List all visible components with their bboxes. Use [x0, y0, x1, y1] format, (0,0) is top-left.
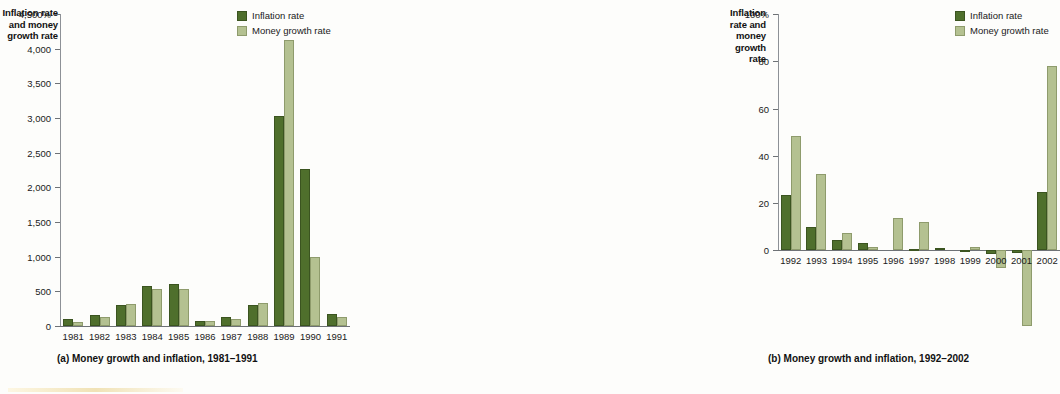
bar-inflation-rate-1998	[935, 248, 945, 250]
bar-money-growth-rate-1999	[970, 247, 980, 251]
y-tick-label: 2,500	[0, 147, 51, 158]
bar-inflation-rate-1997	[909, 249, 919, 251]
bar-money-growth-rate-1992	[791, 136, 801, 251]
y-tick-mark	[55, 49, 60, 50]
bar-inflation-rate-1984	[142, 286, 152, 326]
y-tick-label: 0	[709, 245, 769, 256]
x-tick-label-1991: 1991	[326, 331, 347, 342]
x-tick-label-1989: 1989	[274, 331, 295, 342]
y-tick-mark	[773, 109, 778, 110]
y-tick-label: 20	[709, 198, 769, 209]
bar-money-growth-rate-1996	[893, 218, 903, 250]
x-tick-label-2000: 2000	[985, 255, 1006, 266]
x-tick-label-1986: 1986	[194, 331, 215, 342]
x-tick-label-1981: 1981	[63, 331, 84, 342]
y-tick-label: 3,000	[0, 113, 51, 124]
panel-a-plot-area: 05001,0001,5002,0002,5003,0003,5004,0004…	[60, 14, 350, 326]
y-tick-label: 40	[709, 150, 769, 161]
x-tick-label-1995: 1995	[857, 255, 878, 266]
bar-money-growth-rate-2002	[1047, 66, 1057, 250]
y-tick-mark	[773, 156, 778, 157]
x-tick-label-1987: 1987	[221, 331, 242, 342]
y-tick-label: 500	[0, 286, 51, 297]
bar-money-growth-rate-1990	[310, 257, 320, 326]
bar-inflation-rate-1988	[248, 305, 258, 326]
bar-inflation-rate-1982	[90, 315, 100, 326]
y-tick-label: 2,000	[0, 182, 51, 193]
bar-money-growth-rate-1982	[100, 317, 110, 326]
bar-inflation-rate-1987	[221, 317, 231, 326]
y-tick-mark	[55, 326, 60, 327]
decorative-bottom-band	[8, 388, 183, 392]
bar-money-growth-rate-1987	[231, 319, 241, 326]
y-tick-mark	[773, 61, 778, 62]
bar-inflation-rate-1981	[63, 319, 73, 326]
x-tick-label-1990: 1990	[300, 331, 321, 342]
x-tick-label-2002: 2002	[1037, 255, 1058, 266]
y-tick-label: 0	[0, 321, 51, 332]
y-tick-mark	[55, 257, 60, 258]
y-tick-mark	[55, 153, 60, 154]
bar-inflation-rate-2000	[986, 250, 996, 254]
panel-b-caption: (b) Money growth and inflation, 1992–200…	[768, 353, 969, 364]
bar-inflation-rate-1985	[169, 284, 179, 326]
chart-panel-a: Inflation rate and money growth rate Inf…	[0, 0, 360, 394]
bar-inflation-rate-1999	[960, 250, 970, 252]
bar-inflation-rate-2002	[1037, 192, 1047, 250]
x-tick-label-1999: 1999	[960, 255, 981, 266]
y-tick-mark	[55, 291, 60, 292]
x-tick-label-1997: 1997	[908, 255, 929, 266]
y-tick-label: 4,000	[0, 43, 51, 54]
bar-money-growth-rate-1994	[842, 233, 852, 250]
y-tick-label: 3,500	[0, 78, 51, 89]
bar-money-growth-rate-1986	[205, 321, 215, 326]
bar-inflation-rate-1991	[327, 314, 337, 326]
y-tick-mark	[55, 118, 60, 119]
y-tick-mark	[773, 203, 778, 204]
y-tick-label: 100%	[709, 9, 769, 20]
bar-money-growth-rate-1984	[152, 289, 162, 326]
y-tick-label: 4,500%	[0, 9, 51, 20]
panel-a-bar-group	[60, 14, 350, 326]
bar-money-growth-rate-1988	[258, 303, 268, 326]
bar-money-growth-rate-1981	[73, 322, 83, 326]
y-tick-mark	[55, 14, 60, 15]
y-tick-label: 60	[709, 103, 769, 114]
panel-b-bar-group	[778, 14, 1060, 326]
panel-b-plot-area: 020406080100%	[778, 14, 1060, 326]
x-tick-label-1988: 1988	[247, 331, 268, 342]
x-tick-label-1993: 1993	[806, 255, 827, 266]
x-tick-label-2001: 2001	[1011, 255, 1032, 266]
x-tick-label-1982: 1982	[89, 331, 110, 342]
bar-money-growth-rate-1993	[816, 174, 826, 250]
x-tick-label-1994: 1994	[832, 255, 853, 266]
bar-money-growth-rate-1983	[126, 304, 136, 326]
bar-money-growth-rate-1995	[868, 247, 878, 250]
bar-money-growth-rate-1997	[919, 222, 929, 251]
x-tick-label-1996: 1996	[883, 255, 904, 266]
bar-money-growth-rate-1991	[337, 317, 347, 326]
x-tick-label-1983: 1983	[115, 331, 136, 342]
panel-a-x-axis	[60, 326, 350, 327]
x-tick-label-1998: 1998	[934, 255, 955, 266]
bar-inflation-rate-2001	[1012, 250, 1022, 253]
bar-inflation-rate-1990	[300, 169, 310, 326]
chart-panel-b: Inflation rate and money growth rate Inf…	[360, 0, 715, 394]
bar-inflation-rate-1994	[832, 240, 842, 250]
bar-inflation-rate-1989	[274, 116, 284, 326]
y-tick-mark	[55, 187, 60, 188]
bar-inflation-rate-1993	[806, 227, 816, 251]
y-tick-label: 1,500	[0, 217, 51, 228]
bar-inflation-rate-1986	[195, 321, 205, 326]
y-tick-mark	[773, 14, 778, 15]
bar-money-growth-rate-1985	[179, 289, 189, 326]
y-tick-mark	[55, 83, 60, 84]
bar-inflation-rate-1992	[781, 195, 791, 251]
y-tick-mark	[773, 250, 778, 251]
bar-inflation-rate-1983	[116, 305, 126, 326]
y-tick-label: 80	[709, 56, 769, 67]
y-tick-mark	[55, 222, 60, 223]
bar-money-growth-rate-1989	[284, 40, 294, 326]
x-tick-label-1984: 1984	[142, 331, 163, 342]
